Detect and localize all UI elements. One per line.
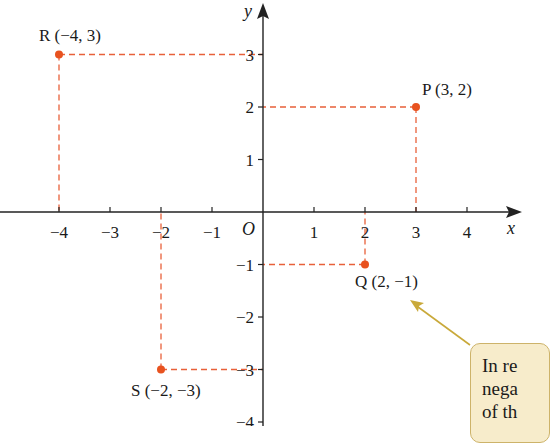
origin-label: O — [242, 219, 255, 239]
callout-arrow — [410, 300, 470, 345]
y-tick-label: 2 — [246, 98, 255, 117]
y-tick-label: 3 — [246, 46, 255, 65]
point-s — [157, 366, 165, 374]
callout-line-2: nega — [482, 377, 549, 400]
axes — [0, 3, 522, 426]
callout-line-1: In re — [482, 354, 549, 377]
x-tick-label: 3 — [412, 223, 421, 242]
point-q — [361, 261, 369, 269]
point-p — [412, 103, 420, 111]
y-tick-label: −2 — [236, 308, 254, 327]
y-tick-label: 1 — [246, 151, 255, 170]
x-tick-label: −4 — [50, 223, 69, 242]
x-tick-label: 4 — [463, 223, 472, 242]
y-tick-label: −3 — [236, 361, 254, 380]
x-axis-label: x — [506, 218, 515, 238]
x-tick-label: −3 — [101, 223, 119, 242]
x-tick-label: −2 — [152, 223, 170, 242]
y-tick-label: −1 — [236, 256, 254, 275]
x-tick-label: 1 — [310, 223, 319, 242]
callout-note: In re nega of th — [470, 343, 550, 443]
point-label-r: R (−4, 3) — [39, 26, 101, 45]
x-tick-label: 2 — [361, 223, 370, 242]
callout-line-3: of th — [482, 400, 549, 423]
y-tick-label: −4 — [236, 413, 255, 426]
y-axis-label: y — [242, 1, 252, 21]
point-label-p: P (3, 2) — [422, 80, 472, 99]
x-tick-label: −1 — [203, 223, 221, 242]
point-r — [55, 51, 63, 59]
point-label-q: Q (2, −1) — [355, 272, 418, 291]
point-label-s: S (−2, −3) — [131, 381, 201, 400]
